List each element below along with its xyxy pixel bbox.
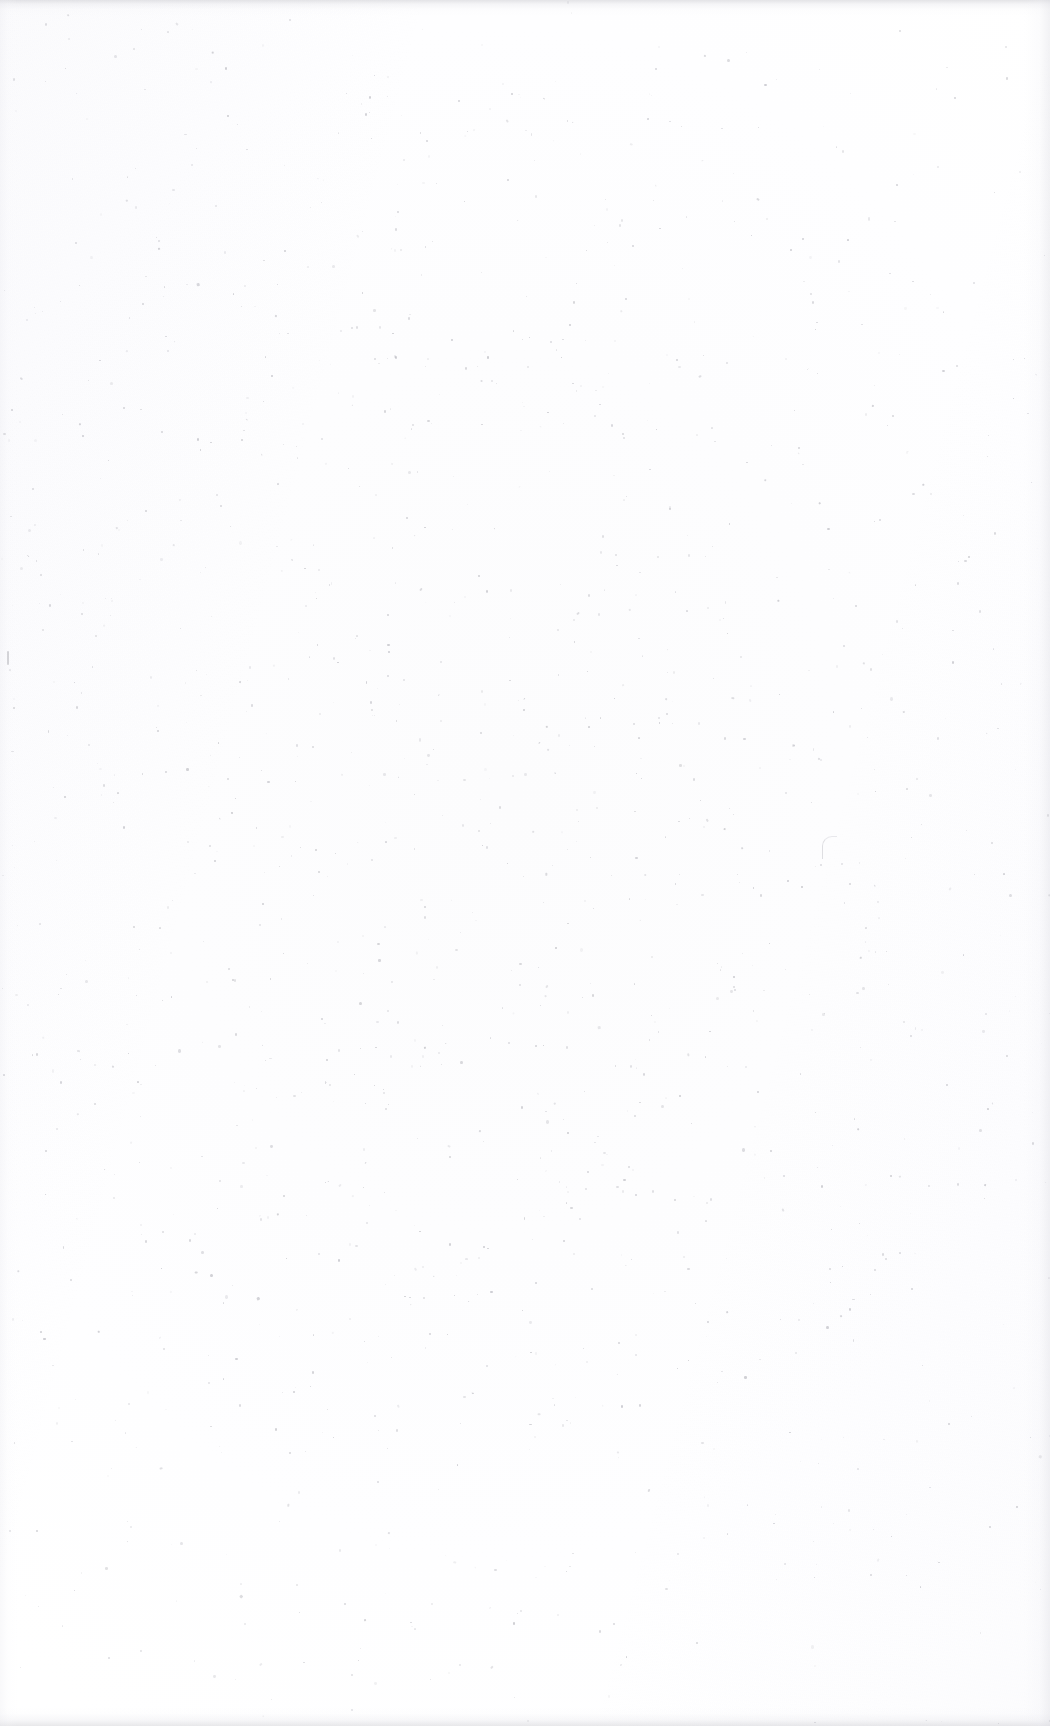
scanner-edge-band-bottom [0,1706,1050,1726]
page-content-area [120,120,930,1600]
scanner-edge-band-right [1024,0,1050,1726]
scanner-edge-band-top [0,0,1050,16]
scanner-edge-band-left [0,0,18,1726]
scanned-page [0,0,1050,1726]
